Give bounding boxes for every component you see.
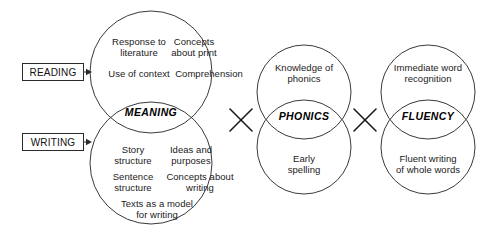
item-texts-as-a-model-for-writing: Texts as a model for writing — [112, 198, 202, 220]
item-concepts-about-print: Concepts about print — [162, 36, 226, 58]
item-early-spelling: Early spelling — [276, 153, 332, 175]
side-label-writing[interactable]: WRITING — [22, 133, 84, 151]
item-use-of-context: Use of context — [103, 68, 175, 79]
circle-phonics-top — [257, 45, 351, 139]
side-label-reading[interactable]: READING — [22, 63, 84, 81]
arrowhead-writing — [86, 139, 92, 145]
lens-label-fluency: FLUENCY — [368, 110, 488, 122]
item-knowledge-of-phonics: Knowledge of phonics — [264, 62, 344, 84]
item-immediate-word-recognition: Immediate word recognition — [385, 62, 471, 84]
item-comprehension: Comprehension — [170, 68, 248, 79]
lens-label-meaning: MEANING — [91, 106, 211, 118]
item-story-structure: Story structure — [104, 144, 162, 166]
item-sentence-structure: Sentence structure — [104, 171, 162, 193]
diagram-canvas: MEANINGResponse to literatureConcepts ab… — [0, 0, 490, 240]
item-concepts-about-writing: Concepts about writing — [160, 171, 240, 193]
arrowhead-reading — [86, 69, 92, 75]
item-fluent-writing-of-whole-words: Fluent writing of whole words — [387, 153, 469, 175]
circle-fluency-top — [381, 45, 475, 139]
lens-label-phonics: PHONICS — [244, 110, 364, 122]
item-ideas-and-purposes: Ideas and purposes — [160, 144, 222, 166]
